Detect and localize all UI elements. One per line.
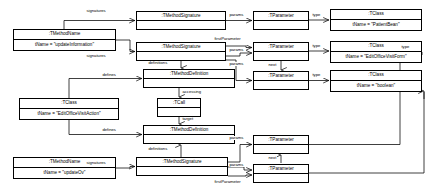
node-tmethodsignature-2[interactable]: :TMethodSignature [136, 42, 226, 61]
edge-label-signatures: signatures [86, 161, 106, 165]
edge-label-defines: defines [102, 73, 116, 77]
node-type-label: :TParameter [254, 12, 308, 21]
edge-label-params: params [229, 13, 244, 17]
node-tparameter-3[interactable]: :TParameter [253, 71, 309, 90]
node-type-label: :TMethodDefinition [144, 126, 234, 135]
edge-label-signatures: signatures [86, 54, 106, 58]
node-type-label: :TClass [331, 71, 421, 81]
edge-label-firstparameter: firstParameter [214, 37, 241, 41]
node-tmethodsignature-1[interactable]: :TMethodSignature [136, 11, 226, 30]
node-type-label: :TClass [20, 99, 118, 109]
node-type-label: :TParameter [254, 72, 308, 81]
edge-type-5 [309, 92, 424, 173]
node-tclass-boolean[interactable]: :TClass tName = "boolean" [330, 70, 422, 92]
node-tparameter-4[interactable]: :TParameter [253, 135, 309, 154]
edge-label-params: params [229, 62, 244, 66]
edge-signatures-2 [116, 40, 135, 52]
edge-label-type: type [312, 13, 321, 17]
edge-firstparameter-2 [228, 175, 252, 176]
uml-object-diagram: :TMethodName tName = "updateInformation"… [0, 0, 430, 192]
node-empty-compartment [137, 167, 227, 175]
node-type-label: :TParameter [254, 136, 308, 145]
edge-defines-1 [69, 79, 142, 99]
node-type-label: :TMethodDefinition [144, 70, 234, 79]
node-type-label: :TMethodName [14, 30, 115, 40]
edge-label-accessing: accessing [182, 90, 201, 94]
edge-signatures-3 [116, 167, 135, 169]
edge-label-next: next [268, 156, 277, 160]
node-attribute: tName = "PatientBean" [331, 20, 421, 30]
node-tmethoddefinition-2[interactable]: :TMethodDefinition [143, 125, 235, 144]
node-empty-compartment [254, 52, 308, 60]
edge-label-definitions: definitions [148, 147, 168, 151]
edge-label-next: next [268, 63, 277, 67]
node-empty-compartment [158, 108, 200, 116]
node-type-label: :TCall [158, 99, 200, 108]
edge-label-signatures: signatures [86, 9, 106, 13]
node-empty-compartment [144, 79, 234, 87]
node-type-label: :TParameter [254, 43, 308, 52]
edge-label-params: params [229, 163, 244, 167]
edge-signatures-1 [64, 21, 135, 30]
edge-label-firstparameter: firstParameter [214, 180, 241, 184]
node-attribute: tName = "updateOv" [14, 168, 115, 178]
edge-params-2 [226, 53, 252, 56]
node-tparameter-1[interactable]: :TParameter [253, 11, 309, 30]
edge-type-4 [309, 52, 422, 145]
node-type-label: :TMethodSignature [137, 12, 225, 21]
node-tparameter-2[interactable]: :TParameter [253, 42, 309, 61]
edge-label-defines: defines [102, 128, 116, 132]
edge-label-params: params [229, 48, 244, 52]
edge-params-5 [228, 167, 252, 170]
node-empty-compartment [254, 174, 308, 182]
node-tclass-patientbean[interactable]: :TClass tName = "PatientBean" [330, 9, 422, 31]
node-tparameter-5[interactable]: :TParameter [253, 164, 309, 183]
node-type-label: :TMethodSignature [137, 158, 227, 167]
node-empty-compartment [254, 21, 308, 29]
edge-label-type: type [312, 44, 321, 48]
edge-label-type: type [312, 73, 321, 77]
node-tmethodname-updateinformation[interactable]: :TMethodName tName = "updateInformation" [13, 29, 116, 51]
node-type-label: :TClass [331, 10, 421, 20]
node-attribute: tName = "EditOfficeVisitForm" [331, 52, 421, 62]
node-attribute: tName = "updateInformation" [14, 40, 115, 50]
node-attribute: tName = "EditOfficeVisitAction" [20, 109, 118, 119]
node-tmethoddefinition-1[interactable]: :TMethodDefinition [143, 69, 235, 88]
node-tcall[interactable]: :TCall [157, 98, 201, 117]
edge-label-params: params [229, 136, 244, 140]
node-empty-compartment [144, 135, 234, 143]
edge-label-target: target [182, 117, 194, 121]
node-empty-compartment [137, 52, 225, 60]
edge-label-definitions: definitions [148, 61, 168, 65]
node-empty-compartment [137, 21, 225, 29]
node-attribute: tName = "boolean" [331, 81, 421, 91]
node-type-label: :TMethodSignature [137, 43, 225, 52]
edge-label-type: type [401, 45, 410, 49]
node-type-label: :TParameter [254, 165, 308, 174]
node-empty-compartment [254, 145, 308, 153]
edge-params-4 [228, 145, 252, 163]
node-tclass-editofficevisitaction[interactable]: :TClass tName = "EditOfficeVisitAction" [19, 98, 119, 120]
node-tmethodsignature-3[interactable]: :TMethodSignature [136, 157, 228, 176]
node-empty-compartment [254, 81, 308, 89]
